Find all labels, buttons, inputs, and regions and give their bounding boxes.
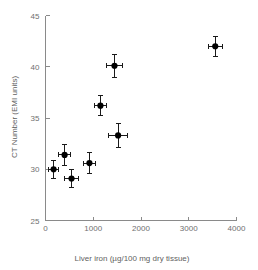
data-point — [208, 36, 222, 57]
data-marker — [111, 63, 117, 69]
data-point — [109, 123, 128, 148]
y-tick-label-45: 45 — [31, 12, 40, 21]
x-axis-title: Liver iron (µg/100 mg dry tissue) — [75, 254, 190, 263]
data-points-group — [48, 36, 222, 188]
data-marker — [86, 160, 92, 166]
data-marker — [97, 103, 103, 109]
data-point — [58, 145, 70, 166]
x-tick-label-0: 0 — [43, 224, 48, 233]
x-tick-label-1000: 1000 — [84, 224, 102, 233]
data-marker — [68, 175, 74, 181]
chart-canvas: 010002000300040002530354045 Liver iron (… — [0, 0, 258, 270]
y-tick-label-25: 25 — [31, 217, 40, 226]
x-tick-label-2000: 2000 — [132, 224, 150, 233]
y-axis-title: CT Number (EMI units) — [10, 76, 19, 158]
data-point — [64, 169, 78, 187]
scatter-plot-figure: 010002000300040002530354045 Liver iron (… — [0, 0, 258, 270]
data-marker — [212, 43, 218, 49]
data-point — [48, 160, 59, 178]
data-marker — [51, 166, 57, 172]
data-point — [83, 153, 95, 174]
x-tick-label-4000: 4000 — [228, 224, 246, 233]
data-marker — [115, 132, 121, 138]
x-tick-label-3000: 3000 — [180, 224, 198, 233]
y-tick-label-30: 30 — [31, 165, 40, 174]
data-marker — [62, 152, 68, 158]
data-point — [95, 95, 106, 116]
data-point — [107, 54, 122, 77]
y-tick-label-35: 35 — [31, 114, 40, 123]
y-tick-label-40: 40 — [31, 63, 40, 72]
